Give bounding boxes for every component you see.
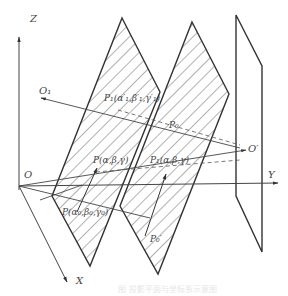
z-axis-label: Z: [29, 13, 38, 24]
o-prime-label: O′: [248, 143, 259, 154]
p-mid-label: P(α,β,γ): [92, 155, 129, 165]
origin-label: O: [24, 169, 32, 180]
p1-top-label: P₁(α′₁,β′₁,γ′₁): [103, 93, 161, 103]
figure-caption: 图 投影平面与坐标系示意图: [118, 284, 217, 294]
p-low-label: P(α₀,β₀,γ₀): [61, 207, 109, 217]
p0-top-label: P₀: [168, 120, 179, 130]
coordinate-planes-diagram: Z Y X O O₁ O′ P₁(α′₁,β′₁,γ′₁) P₀ P(α,β,γ…: [0, 0, 288, 296]
p0-low-label: P₀′: [149, 234, 162, 244]
y-axis-label: Y: [268, 169, 276, 180]
o1-label: O₁: [39, 85, 51, 96]
x-axis-label: X: [75, 275, 84, 286]
p1-mid-label: P₁(α,β,γ): [149, 155, 190, 165]
plane-3: [236, 15, 262, 252]
